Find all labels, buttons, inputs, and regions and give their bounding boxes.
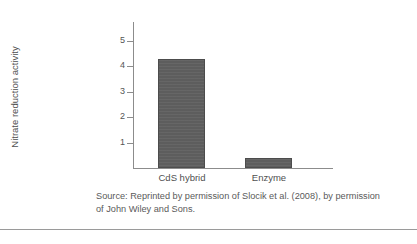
bottom-divider: [0, 229, 417, 230]
x-axis-line: [133, 168, 333, 169]
y-tick-label-1-wrap: 1: [99, 138, 125, 148]
y-axis-line: [133, 22, 134, 169]
y-tick-2: [127, 117, 133, 118]
y-tick-5: [127, 41, 133, 42]
y-tick-label-4-wrap: 4: [99, 61, 125, 71]
x-category-label-enzyme: Enzyme: [228, 172, 310, 183]
y-tick-label-2-wrap: 2: [99, 112, 125, 122]
y-tick-1: [127, 143, 133, 144]
bar-cds-hybrid[interactable]: [158, 59, 205, 168]
y-tick-label-1: 1: [103, 138, 125, 147]
caption-line-1: Source: Reprinted by permission of Sloci…: [96, 191, 380, 201]
figure-panel: Nitrate reduction activity 5 4 3 2 1 CdS…: [0, 0, 417, 185]
y-tick-label-4: 4: [103, 61, 125, 70]
y-tick-4: [127, 66, 133, 67]
y-tick-label-5-wrap: 5: [99, 36, 125, 46]
y-tick-label-3-wrap: 3: [99, 87, 125, 97]
y-tick-label-3: 3: [103, 87, 125, 96]
source-caption: Source: Reprinted by permission of Sloci…: [96, 190, 386, 215]
bar-chart-plot: Nitrate reduction activity 5 4 3 2 1 CdS…: [0, 0, 417, 185]
x-category-label-cds-hybrid: CdS hybrid: [141, 172, 223, 183]
caption-line-2: of John Wiley and Sons.: [96, 204, 195, 214]
y-tick-label-5: 5: [103, 36, 125, 45]
y-tick-label-2: 2: [103, 112, 125, 121]
y-axis-title: Nitrate reduction activity: [10, 22, 20, 172]
bar-enzyme[interactable]: [245, 158, 292, 168]
y-tick-3: [127, 92, 133, 93]
